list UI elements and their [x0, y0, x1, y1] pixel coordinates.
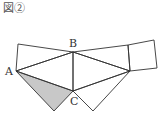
face-bdc [73, 52, 130, 91]
top-left-face [16, 44, 73, 71]
net-diagram [0, 0, 163, 121]
shaded-triangle [16, 71, 73, 111]
square-face [128, 40, 157, 71]
vertex-label-c: C [70, 96, 78, 107]
top-right-face [73, 45, 130, 71]
vertex-label-b: B [69, 38, 77, 49]
vertex-label-a: A [5, 66, 13, 77]
bottom-right-face [73, 71, 130, 111]
